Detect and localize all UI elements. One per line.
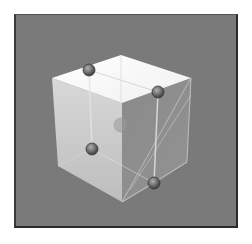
cube-scene[interactable]	[0, 0, 252, 244]
handle-top-right[interactable]	[152, 86, 164, 98]
center-handle[interactable]	[114, 118, 128, 132]
handle-top-left[interactable]	[83, 64, 95, 76]
handle-bottom-left[interactable]	[86, 143, 98, 155]
handle-bottom-right[interactable]	[148, 177, 160, 189]
